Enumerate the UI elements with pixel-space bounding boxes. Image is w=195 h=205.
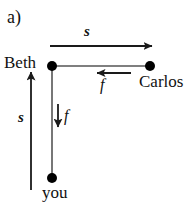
force-symbol-horizontal: f [100,77,104,93]
panel-label: a) [7,8,21,26]
node-you [47,173,57,183]
force-symbol-vertical: f [64,108,68,124]
node-label-carlos: Carlos [139,73,183,90]
node-carlos [145,61,155,71]
displacement-symbol-top: s [84,24,90,39]
physics-vector-diagram: a) Beth Carlos you s s f f [0,0,195,205]
diagram-canvas [0,0,195,205]
node-label-you: you [42,184,68,201]
node-label-beth: Beth [4,54,36,71]
node-beth [47,61,57,71]
displacement-symbol-left: s [18,110,24,125]
